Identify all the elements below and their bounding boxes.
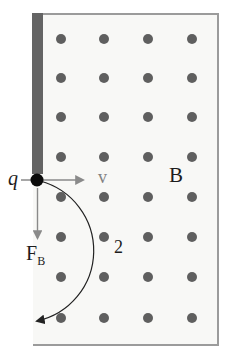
boundary-bar	[32, 13, 43, 174]
field-dot	[99, 192, 109, 202]
field-dot	[143, 34, 153, 44]
path-number-label: 2	[114, 238, 123, 256]
field-dot	[187, 192, 197, 202]
field-dot	[187, 73, 197, 83]
field-dot	[99, 272, 109, 282]
field-dot	[143, 73, 153, 83]
field-dot	[143, 313, 153, 323]
field-dot	[187, 112, 197, 122]
field-dot	[143, 112, 153, 122]
field-dot	[143, 192, 153, 202]
field-dot	[187, 232, 197, 242]
field-dot	[99, 34, 109, 44]
field-dot	[99, 73, 109, 83]
field-dot	[56, 232, 66, 242]
physics-diagram: q v B FB 2	[0, 0, 230, 361]
charge-particle	[31, 174, 44, 187]
field-label: B	[169, 165, 183, 186]
force-label: FB	[26, 243, 45, 267]
field-dot	[56, 272, 66, 282]
field-dot	[99, 112, 109, 122]
velocity-label: v	[98, 168, 107, 186]
field-dot	[187, 313, 197, 323]
field-dot	[56, 34, 66, 44]
force-label-symbol: F	[26, 242, 37, 264]
field-dot	[143, 152, 153, 162]
field-dot	[187, 272, 197, 282]
field-dot	[187, 152, 197, 162]
field-dot	[143, 232, 153, 242]
force-label-subscript: B	[37, 254, 45, 268]
field-dot	[56, 112, 66, 122]
magnetic-field-region	[33, 13, 219, 346]
field-dot	[56, 192, 66, 202]
field-dot	[56, 152, 66, 162]
field-dot	[187, 34, 197, 44]
field-dot	[99, 232, 109, 242]
field-dot	[56, 73, 66, 83]
field-dot	[143, 272, 153, 282]
field-dot	[99, 313, 109, 323]
field-dot	[99, 152, 109, 162]
field-dot	[56, 313, 66, 323]
charge-label: q	[8, 168, 18, 188]
